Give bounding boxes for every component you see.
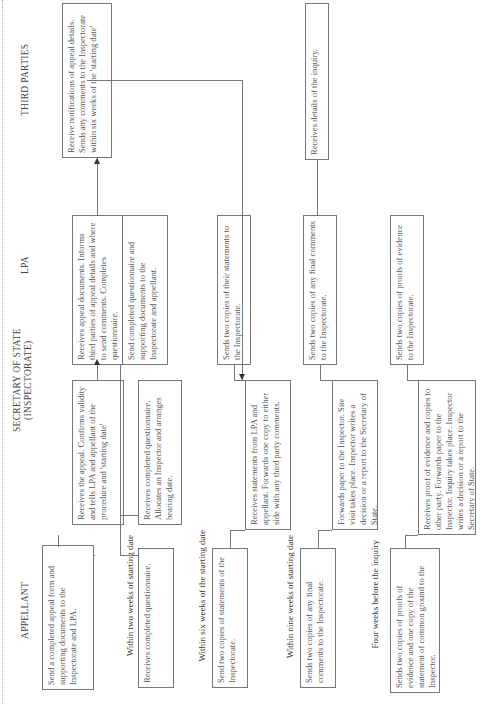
box-lpa-sends-statements: Sends two copies of their statements to … [217, 215, 251, 365]
connector-q-appellant [120, 515, 121, 555]
box-appellant-send-statements: Send two copies of statements of the Ins… [212, 548, 248, 688]
box-sos-receives-appeal: Receives the appeal. Confirms validity a… [72, 380, 124, 525]
connector-final-h [318, 530, 332, 531]
connector-third-long-h [87, 80, 242, 81]
arrow-lpa-to-third-icon [94, 158, 100, 164]
connector-q-h1 [120, 515, 138, 516]
label-within-nine-weeks: Within nine weeks of starting date [285, 535, 295, 658]
label-within-six-weeks: Within six weeks of the starting date [197, 530, 207, 662]
box-lpa-receives-docs: Receives appeal documents. Informs third… [72, 215, 124, 365]
connector-1 [94, 555, 95, 556]
connector-final-lpa-h [320, 380, 332, 381]
header-appellant: APPELLANT [20, 560, 31, 660]
header-secretary-of-state: SECRETARY OF STATE (INSPECTORATE) [12, 300, 40, 460]
connector-q-vert [120, 365, 121, 515]
connector-third-long-v [242, 80, 243, 380]
connector-proof-appellant [405, 535, 406, 548]
header-lpa: LPA [20, 250, 31, 280]
connector-lpa-third [97, 158, 98, 215]
header-third-parties: THIRD PARTIES [20, 30, 31, 130]
arrow-sos-to-lpa-icon [94, 359, 100, 365]
page-margin-rule [2, 0, 3, 704]
connector-q-appellant-h [120, 555, 138, 556]
box-sos-forwards-paper: Forwards paper to the Inspector. Site vi… [332, 380, 378, 530]
label-within-two-weeks: Within two weeks of starting date [125, 535, 135, 656]
label-four-weeks-inquiry: Four weeks before the inquiry [370, 540, 380, 648]
box-sos-receives-statements: Receives statements from LPA and appella… [245, 380, 291, 530]
box-appellant-proofs: Sends two copies of proofs of evidence a… [390, 548, 440, 693]
box-appellant-final-comments: Sends two copies of any final comments t… [300, 548, 336, 688]
box-sos-receives-proofs: Receives proof of evidence and copies to… [418, 380, 476, 535]
connector-stmt-lpa-h [234, 380, 245, 381]
box-lpa-final-comments: Sends two copies of any final comments t… [303, 215, 337, 365]
connector-proof-lpa-h [407, 380, 418, 381]
connector-stmt-lpa [234, 365, 235, 380]
box-appellant-send-form: Send a completed appeal form and support… [42, 545, 94, 690]
connector-final-lpa [320, 365, 321, 380]
connector-sos-lpa [97, 365, 98, 380]
box-third-receive-inquiry: Receives details of the inquiry. [305, 3, 329, 160]
connector-proof-lpa [407, 365, 408, 380]
box-lpa-proofs: Sends two copies of proofs of evidence t… [390, 215, 424, 365]
arrow-into-sos-statements-icon [239, 374, 245, 380]
connector-stmt-h [230, 530, 245, 531]
connector-proof-h [405, 535, 418, 536]
box-lpa-send-questionnaire: Send completed questionnaire and support… [122, 215, 168, 365]
connector-stmt-appellant [230, 530, 231, 548]
connector-row1-horizontal [58, 535, 59, 547]
box-appellant-receives-questionnaire: Receives completed questionnaire. [138, 548, 174, 688]
connector-final-appellant [318, 530, 319, 548]
box-sos-receives-questionnaire: Receives completed questionnaire. Alloca… [138, 380, 182, 525]
connector-lpa-third-inquiry [317, 160, 318, 215]
